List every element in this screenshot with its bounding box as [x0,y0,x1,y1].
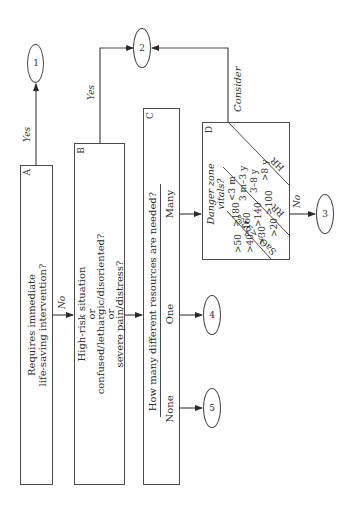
hr-3-8y: >140 [253,202,263,227]
option-many: Many [164,190,175,218]
outcome-5: 5 [203,388,221,428]
option-one: One [164,304,175,325]
rr-gt8y: >20 [269,218,279,237]
age-3m-3y: 3 m–3 y [238,166,248,201]
outcome-4: 4 [203,295,221,335]
outcome-3: 3 [316,194,334,234]
resources-divider [160,184,161,417]
edge-label-a-yes: Yes [22,127,32,142]
outcome-2: 2 [133,28,151,68]
age-lt3m: <3 m [227,176,237,201]
decision-box-b: B High-risk situation or confused/lethar… [74,143,125,485]
edge-label-a-no: No [57,296,67,309]
age-3-8y: 3–8 y [249,169,259,193]
resources-question: How many different resources are needed? [147,186,158,417]
box-b-text: High-risk situation or confused/lethargi… [77,144,125,484]
edge-label-b-yes: Yes [86,85,96,100]
decision-box-c: C How many different resources are neede… [143,108,180,485]
option-none: None [164,395,175,422]
box-a-text: Requires immediate life-saving intervent… [26,166,48,484]
edge-label-d-no: No [292,195,302,208]
box-letter-c: C [145,112,155,119]
decision-box-d: D Danger zone vitals? <3 m 3 m–3 y 3–8 y… [202,122,290,260]
outcome-1: 1 [27,44,44,83]
decision-box-a: A Requires immediate life-saving interve… [20,165,53,485]
rr-lt3m: >50 [233,234,243,253]
edge-label-d-consider: Consider [232,66,243,112]
flowchart-canvas: A Requires immediate life-saving interve… [0,0,350,520]
